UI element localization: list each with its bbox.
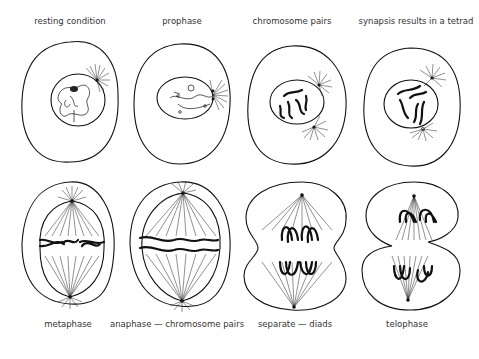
label-metaphase: metaphase [44,319,92,329]
label-prophase: prophase [162,16,202,26]
centrosome-icon [58,295,82,309]
centrosome-icon [300,193,304,197]
centrosome-icon [302,116,328,140]
cell-metaphase [22,182,114,309]
label-resting-condition: resting condition [34,16,105,26]
cell-separate-diads [244,182,346,310]
label-synapsis: synapsis results in a tetrad [359,16,474,26]
label-anaphase: anaphase — chromosome pairs [110,319,244,329]
cell-anaphase [130,181,230,312]
cell-prophase [134,44,230,164]
cell-telophase [362,182,460,310]
centrosome-icon [406,298,410,302]
centrosome-icon [86,64,110,92]
centrosome-icon [420,64,446,87]
cell-chromosome-pairs [248,46,346,164]
label-chromosome-pairs: chromosome pairs [253,16,332,26]
centrosome-icon [412,194,416,198]
cell-synapsis-tetrad [364,48,460,166]
cell-resting-condition [22,42,118,163]
label-separate-diads: separate — diads [258,319,332,329]
label-telophase: telophase [386,319,428,329]
meiosis-diagram [0,0,479,359]
centrosome-icon [292,305,296,309]
centrosome-icon [58,186,86,203]
